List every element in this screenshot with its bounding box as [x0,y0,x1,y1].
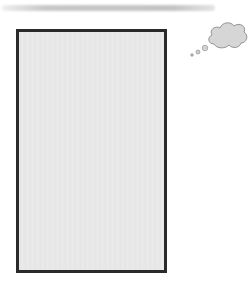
thought-dot-small [191,54,194,57]
thought-bubble-icon [186,14,250,64]
thought-dot-medium [196,50,200,54]
thought-dot-large [202,45,208,51]
header-stripe [2,5,215,11]
blank-panel [16,29,167,273]
thought-cloud [209,23,247,48]
